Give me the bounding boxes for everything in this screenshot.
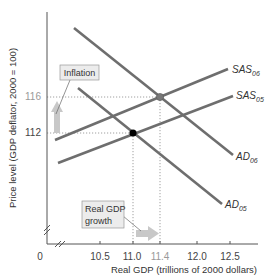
gdp-growth-callout-text-1: Real GDP [85, 204, 126, 214]
axes [44, 12, 258, 247]
x-tick-label: 10.5 [90, 251, 110, 262]
gdp-growth-arrow [136, 226, 159, 241]
y-axis-title: Price level (GDP deflator, 2000 = 100) [7, 48, 18, 208]
inflation-callout-text: Inflation [64, 68, 96, 78]
sas06-label: SAS06 [232, 64, 260, 77]
ad05-label: AD05 [224, 199, 247, 212]
origin-label: 0 [37, 251, 43, 262]
chart: 0 10.5 11.0 11.4 12.0 12.5 112 116 Real … [0, 0, 268, 279]
y-tick-label: 116 [25, 91, 41, 102]
sas05-curve [58, 96, 233, 163]
ad06-curve [74, 28, 233, 155]
equilibrium-2006-dot [156, 93, 163, 100]
curves [55, 28, 233, 204]
gdp-growth-callout-text-2: growth [85, 216, 112, 226]
x-tick-label: 11.0 [123, 251, 142, 262]
x-tick-label: 12.0 [187, 251, 207, 262]
ad06-label: AD06 [235, 151, 258, 164]
inflation-callout-leader [56, 80, 70, 114]
y-tick-label: 112 [25, 127, 41, 138]
x-axis-title: Real GDP (trillions of 2000 dollars) [111, 264, 257, 275]
equilibrium-2005-dot [129, 129, 136, 136]
inflation-arrow [51, 101, 63, 133]
sas05-label: SAS05 [236, 90, 264, 103]
gdp-growth-callout-leader [123, 216, 141, 231]
x-tick-label: 12.5 [220, 251, 240, 262]
x-tick-label: 11.4 [151, 251, 170, 262]
